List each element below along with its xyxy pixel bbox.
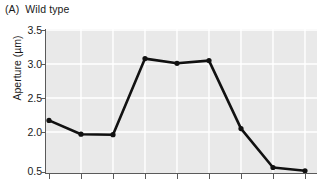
x-tick-mark-7 [241,174,242,179]
x-tick-mark-4 [145,174,146,179]
y-tick-label-group: 3.5 3.0 2.5 2.0 0.5 [16,0,42,184]
data-point-8 [270,165,275,170]
x-tick-mark-6 [209,174,210,179]
y-tick-label-0-5: 0.5 [16,166,42,177]
data-point-7 [238,126,243,131]
x-tick-mark-1 [49,174,50,179]
x-tick-mark-5 [177,174,178,179]
x-tick-mark-8 [273,174,274,179]
y-tick-label-3-5: 3.5 [16,25,42,36]
chart-canvas [46,29,317,173]
grid-lines [46,29,317,173]
plot-area [46,29,317,173]
data-point-5 [174,61,179,66]
x-tick-mark-3 [113,174,114,179]
y-tick-label-2-0: 2.0 [16,127,42,138]
data-point-2 [78,132,83,137]
y-axis-line [45,29,46,174]
x-tick-mark-9 [305,174,306,179]
figure-panel-a: (A)Wild type Aperture (µm) 3.5 3.0 2.5 2… [0,0,317,184]
data-point-6 [206,58,211,63]
y-tick-label-3-0: 3.0 [16,59,42,70]
data-point-3 [110,132,115,137]
x-tick-mark-2 [81,174,82,179]
data-point-4 [142,56,147,61]
y-tick-label-2-5: 2.5 [16,93,42,104]
data-point-1 [46,118,51,123]
x-axis-line [45,173,317,174]
